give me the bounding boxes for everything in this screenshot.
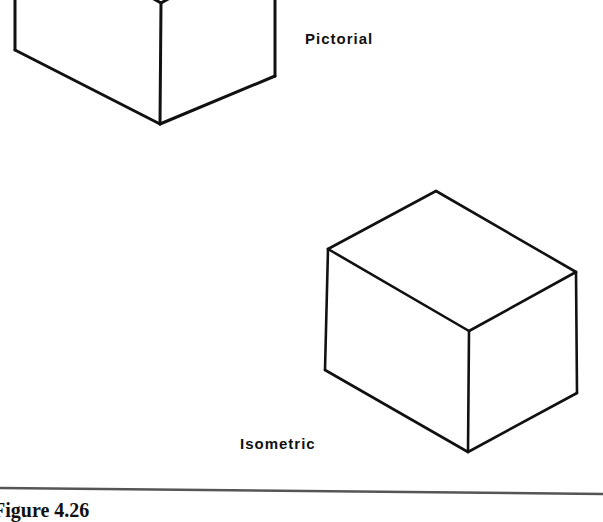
pictorial-cube-drawing [15,0,275,124]
caption-divider-rule [0,488,603,494]
isometric-cube-edge [328,191,436,249]
isometric-cube-edge [576,272,577,393]
isometric-cube-drawing [325,191,577,452]
isometric-cube-edge [436,191,576,272]
pictorial-cube-edge [145,0,161,3]
isometric-label: Isometric [240,435,316,452]
pictorial-cube-edge [161,0,177,3]
figure-caption: Figure 4.26 [0,499,89,522]
pictorial-cube-edge [160,76,275,124]
isometric-cube-edge [328,249,469,331]
pictorial-cube-edge [160,3,161,124]
pictorial-label: Pictorial [305,30,373,47]
isometric-cube-edge [468,393,577,452]
isometric-cube-edge [325,249,328,370]
pictorial-cube-edge [15,50,160,124]
isometric-cube-edge [469,272,576,331]
isometric-cube-edge [325,370,468,452]
isometric-cube-edge [468,331,469,452]
